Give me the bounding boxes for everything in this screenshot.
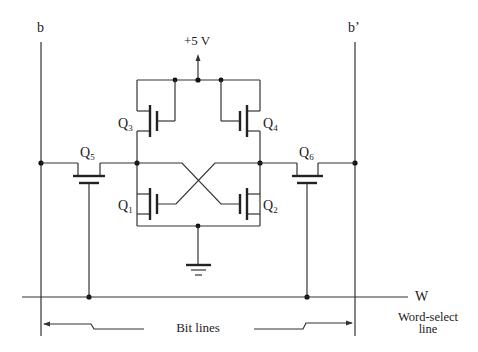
cross-couple-right bbox=[157, 163, 260, 204]
transistor-q1 bbox=[150, 188, 157, 220]
transistor-q5 bbox=[73, 176, 105, 183]
transistor-q3 bbox=[150, 80, 175, 137]
supply-arrow-head-icon bbox=[196, 54, 201, 61]
transistor-q4 bbox=[221, 80, 247, 137]
sram-cell-diagram: b b’ +5 V Q3 Q4 Q1 bbox=[0, 0, 478, 352]
bit-lines-left-arrow bbox=[43, 322, 144, 330]
word-select-label-2: line bbox=[419, 322, 438, 336]
cross-couple-left bbox=[137, 163, 240, 204]
transistor-q2 bbox=[240, 188, 247, 220]
bit-lines-right-arrow bbox=[254, 321, 353, 330]
q3-label: Q3 bbox=[118, 116, 133, 133]
bit-line-b-label: b bbox=[37, 20, 44, 35]
q1-label: Q1 bbox=[118, 198, 133, 215]
q2-label: Q2 bbox=[263, 198, 278, 215]
bit-line-b-prime-label: b’ bbox=[348, 20, 360, 35]
transistor-q6 bbox=[292, 176, 323, 183]
q4-label: Q4 bbox=[263, 116, 278, 133]
q5-label: Q5 bbox=[80, 145, 95, 162]
supply-label: +5 V bbox=[184, 33, 211, 48]
q6-label: Q6 bbox=[299, 145, 314, 162]
ground-icon bbox=[186, 265, 211, 275]
word-line-label: W bbox=[415, 289, 429, 304]
bit-lines-label: Bit lines bbox=[176, 320, 220, 335]
